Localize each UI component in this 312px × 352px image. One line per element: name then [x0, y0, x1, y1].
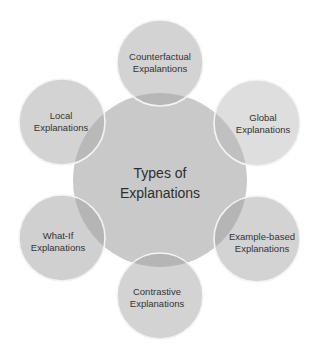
- label-local-line2: Explanations: [34, 122, 88, 134]
- label-counterfactual-line1: Counterfactual: [129, 51, 191, 63]
- label-local-line1: Local: [34, 110, 88, 122]
- label-contrastive-line1: Contrastive: [130, 286, 184, 298]
- label-global-line2: Explanations: [236, 124, 290, 136]
- label-counterfactual-line2: Expalantions: [129, 63, 191, 75]
- label-local: Local Explanations: [34, 110, 88, 135]
- label-what-if-line2: Explanations: [31, 242, 85, 254]
- label-counterfactual: Counterfactual Expalantions: [129, 51, 191, 76]
- center-label-line2: Explanations: [120, 183, 200, 203]
- label-example-based: Example-based Explanations: [229, 231, 295, 256]
- center-label-line1: Types of: [120, 163, 200, 183]
- label-contrastive: Contrastive Explanations: [130, 286, 184, 311]
- label-global: Global Explanations: [236, 112, 290, 137]
- diagram-stage: Types of Explanations Counterfactual Exp…: [0, 0, 312, 352]
- label-what-if-line1: What-If: [31, 230, 85, 242]
- label-example-based-line1: Example-based: [229, 231, 295, 243]
- label-example-based-line2: Explanations: [229, 243, 295, 255]
- center-label: Types of Explanations: [120, 163, 200, 204]
- label-what-if: What-If Explanations: [31, 230, 85, 255]
- label-contrastive-line2: Explanations: [130, 298, 184, 310]
- label-global-line1: Global: [236, 112, 290, 124]
